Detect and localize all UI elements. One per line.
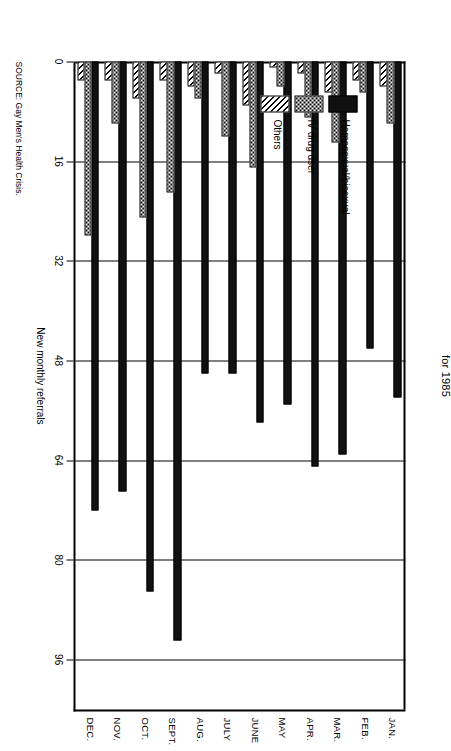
bar-segment: [297, 61, 305, 73]
legend-swatch-diagonal-hatch: [260, 95, 289, 112]
axis-tick-label: 48: [52, 340, 63, 380]
bar-segment: [352, 61, 360, 80]
axis-tick: [66, 460, 73, 461]
bar-group: [295, 0, 323, 751]
bar-segment: [366, 61, 374, 348]
source-note: SOURCE: Gay Men's Health Crisis.: [13, 61, 23, 195]
bar-group: [130, 0, 158, 751]
axis-tick-label: 64: [52, 440, 63, 480]
bar-segment: [139, 61, 147, 217]
category-label: MAR.: [331, 717, 342, 751]
bar-segment: [380, 61, 388, 86]
value-axis-caption: New monthly referrals: [34, 0, 45, 751]
bar-segment: [394, 61, 402, 397]
chart-stage: for 1985 0163248648096 JAN.FEB.MAR.APR.M…: [0, 0, 451, 751]
bar-segment: [146, 61, 154, 591]
bar-segment: [187, 61, 195, 86]
category-label: SEPT.: [166, 717, 177, 751]
bar-group: [75, 0, 103, 751]
bar-segment: [77, 61, 85, 80]
axis-tick: [66, 61, 73, 62]
bar-segment: [201, 61, 209, 373]
legend-label: Others: [271, 119, 282, 149]
axis-tick: [66, 161, 73, 162]
bar-segment: [387, 61, 395, 123]
category-label: OCT.: [139, 717, 150, 751]
bar-segment: [174, 61, 182, 640]
bar-segment: [91, 61, 99, 510]
category-label: FEB.: [359, 717, 370, 751]
bar-group: [350, 0, 378, 751]
category-label: NOV.: [111, 717, 122, 751]
bar-segment: [222, 61, 230, 136]
bar-segment: [119, 61, 127, 491]
category-label: APR.: [304, 717, 315, 751]
bar-group: [240, 0, 268, 751]
bar-segment: [270, 61, 278, 67]
bar-segment: [105, 61, 113, 80]
bar-group: [323, 0, 351, 751]
legend-label: Homosexual/bisexual: [339, 119, 350, 214]
bar-segment: [325, 61, 333, 92]
bar-segment: [167, 61, 175, 192]
axis-tick-label: 32: [52, 240, 63, 280]
bar-segment: [160, 61, 168, 80]
axis-tick-label: 0: [52, 41, 63, 81]
chart-title: for 1985: [439, 0, 451, 751]
category-label: JULY: [221, 717, 232, 751]
axis-tick-label: 80: [52, 539, 63, 579]
axis-tick: [66, 659, 73, 660]
bar-segment: [215, 61, 223, 73]
bar-group: [213, 0, 241, 751]
bar-segment: [256, 61, 264, 422]
category-label: MAY: [276, 717, 287, 751]
bar-segment: [229, 61, 237, 373]
bar-segment: [359, 61, 367, 92]
bar-segment: [112, 61, 120, 123]
category-label: JAN.: [386, 717, 397, 751]
legend-label: IV drug user: [305, 119, 316, 173]
bar-segment: [84, 61, 92, 235]
axis-tick-label: 96: [52, 639, 63, 679]
category-label: JUNE: [249, 717, 260, 751]
bar-group: [103, 0, 131, 751]
legend-swatch-solid-black: [328, 95, 357, 112]
category-label: DEC.: [84, 717, 95, 751]
legend-swatch-dotted: [294, 95, 323, 112]
axis-tick-label: 16: [52, 141, 63, 181]
axis-tick: [66, 260, 73, 261]
bar-group: [185, 0, 213, 751]
bar-segment: [194, 61, 202, 98]
bar-group: [158, 0, 186, 751]
axis-tick: [66, 559, 73, 560]
bar-group: [268, 0, 296, 751]
bar-segment: [242, 61, 250, 105]
bar-segment: [277, 61, 285, 86]
axis-tick: [66, 360, 73, 361]
bar-segment: [249, 61, 257, 167]
bar-segment: [132, 61, 140, 98]
bar-group: [378, 0, 406, 751]
category-label: AUG.: [194, 717, 205, 751]
